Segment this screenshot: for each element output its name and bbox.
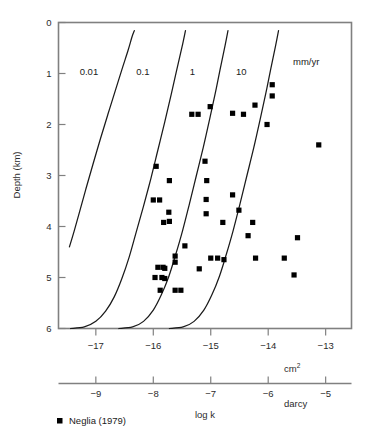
data-point-marker: [215, 256, 220, 261]
y-axis-title: Depth (km): [11, 152, 22, 199]
data-point-marker: [253, 256, 258, 261]
data-point-marker: [241, 112, 246, 117]
data-point-marker: [173, 260, 178, 265]
cm2-tick-label: −13: [318, 340, 334, 351]
legend-square-marker-icon: [57, 418, 63, 424]
data-point-marker: [157, 197, 162, 202]
data-point-marker: [291, 272, 296, 277]
data-point-marker: [221, 257, 226, 262]
data-point-marker: [182, 243, 187, 248]
data-point-marker: [295, 235, 300, 240]
data-point-marker: [197, 266, 202, 271]
data-point-marker: [204, 211, 209, 216]
data-point-marker: [230, 111, 235, 116]
data-point-marker: [167, 219, 172, 224]
cm2-tick-label: −16: [145, 340, 161, 351]
data-point-marker: [154, 164, 159, 169]
cm2-unit-base: cm: [284, 363, 297, 374]
data-point-marker: [230, 192, 235, 197]
data-point-marker: [245, 233, 250, 238]
data-point-marker: [270, 82, 275, 87]
x-axis-title: log k: [195, 409, 215, 420]
darcy-tick-label: −8: [148, 388, 159, 399]
y-tick-label: 4: [46, 221, 51, 232]
data-point-marker: [252, 103, 257, 108]
data-point-marker: [196, 112, 201, 117]
data-point-marker: [173, 253, 178, 258]
curve-label-10: 10: [236, 66, 247, 77]
cm2-unit-superscript: 2: [297, 362, 301, 369]
data-point-marker: [162, 266, 167, 271]
data-point-marker: [208, 104, 213, 109]
data-point-marker: [161, 220, 166, 225]
y-tick-label: 6: [46, 323, 51, 334]
data-point-marker: [151, 197, 156, 202]
data-point-marker: [220, 220, 225, 225]
curve-unit-label: mm/yr: [293, 56, 319, 67]
y-tick-label: 2: [46, 119, 51, 130]
data-point-marker: [202, 159, 207, 164]
data-point-marker: [178, 288, 183, 293]
data-point-marker: [152, 275, 157, 280]
data-point-marker: [173, 288, 178, 293]
chart-canvas: 0123456 Depth (km) 0.010.1110 mm/yr −17−…: [0, 0, 372, 439]
curve-label-0-01: 0.01: [80, 66, 99, 77]
y-tick-label: 3: [46, 170, 51, 181]
cm2-tick-label: −17: [88, 340, 104, 351]
data-point-marker: [155, 265, 160, 270]
darcy-tick-label: −6: [263, 388, 274, 399]
cm2-tick-label: −15: [203, 340, 219, 351]
permeability-depth-chart: 0123456 Depth (km) 0.010.1110 mm/yr −17−…: [0, 0, 372, 439]
darcy-unit-label: darcy: [284, 398, 307, 409]
data-point-marker: [167, 178, 172, 183]
data-point-marker: [189, 112, 194, 117]
data-point-marker: [158, 288, 163, 293]
data-point-marker: [204, 197, 209, 202]
data-point-marker: [204, 178, 209, 183]
data-point-marker: [166, 210, 171, 215]
data-point-marker: [250, 220, 255, 225]
data-point-marker: [282, 256, 287, 261]
curve-label-1: 1: [190, 66, 195, 77]
cm2-tick-label: −14: [260, 340, 276, 351]
data-point-marker: [162, 276, 167, 281]
legend-label-neglia-1979: Neglia (1979): [69, 415, 126, 426]
data-point-marker: [208, 256, 213, 261]
y-tick-label: 5: [46, 272, 51, 283]
curve-label-0-1: 0.1: [136, 66, 149, 77]
data-point-marker: [236, 208, 241, 213]
darcy-tick-label: −5: [320, 388, 331, 399]
y-tick-label: 0: [46, 17, 51, 28]
data-point-marker: [264, 122, 269, 127]
y-tick-label: 1: [46, 68, 51, 79]
data-point-marker: [270, 93, 275, 98]
darcy-tick-label: −7: [205, 388, 216, 399]
data-point-marker: [316, 142, 321, 147]
darcy-tick-label: −9: [90, 388, 101, 399]
